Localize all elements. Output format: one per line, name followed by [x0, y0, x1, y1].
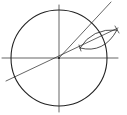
center-point [58, 57, 60, 59]
geometric-diagram [0, 0, 127, 115]
lens-lower-arc [80, 30, 117, 49]
shallow-line [6, 28, 118, 81]
